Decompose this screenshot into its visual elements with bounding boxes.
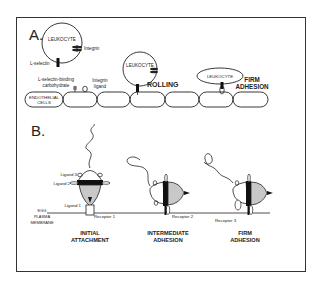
sperm-tail xyxy=(204,154,233,183)
endothelial-cell xyxy=(130,92,165,107)
l-selectin-label: L-selectin xyxy=(30,61,50,66)
receptor-2-label: Receptor 2 xyxy=(172,214,194,219)
leukocyte-1 xyxy=(42,23,82,63)
sperm-intermediate-adhesion xyxy=(127,157,190,215)
ligand-3-icon xyxy=(98,173,103,177)
l-selectin-bond-icon xyxy=(136,84,139,95)
receptor-2-icon xyxy=(166,206,170,215)
sperm-equatorial-band xyxy=(246,181,251,206)
receptor-2-stalk xyxy=(248,206,250,215)
carbohydrate-icon xyxy=(73,86,77,92)
receptor-3-icon xyxy=(235,200,241,210)
stage-2-label-2: ADHESION xyxy=(153,237,183,243)
endothelial-label-2: CELLS xyxy=(37,100,51,105)
receptor-1-label: Receptor 1 xyxy=(94,214,116,219)
ligand-2-label: Ligand 2 xyxy=(54,181,71,186)
sperm-acrosome xyxy=(251,182,267,205)
sperm-initial-attachment xyxy=(70,124,110,215)
sperm-equatorial-band xyxy=(77,180,103,185)
endothelial-label-1: ENDOTHELIAL xyxy=(29,95,59,100)
stage-2-label-1: INTERMEDIATE xyxy=(147,230,189,236)
leukocyte-2-label: LEUKOCYTE xyxy=(126,63,154,68)
stage-1-label-2: ATTACHMENT xyxy=(71,237,110,243)
endothelial-cell xyxy=(97,92,130,107)
firm-adhesion-a-label-2: ADHESION xyxy=(235,83,269,90)
ligand-1-icon xyxy=(184,191,190,195)
ligand-2-icon xyxy=(70,182,78,185)
endothelial-cell xyxy=(63,92,97,107)
ligand-3-label: Ligand 3 xyxy=(61,172,78,177)
sperm-firm-adhesion xyxy=(204,154,273,215)
sperm-equatorial-band xyxy=(163,181,168,206)
leukocyte-3-label: LEUKOCYTE xyxy=(207,74,233,79)
integrin-label: Integrin xyxy=(84,46,100,51)
receptor-3-label: Receptor 3 xyxy=(215,218,237,223)
sperm-tail xyxy=(127,157,150,186)
panel-b: B. EGG PLASMA MEMBRANE Ligand 3 Ligand 2… xyxy=(30,122,273,243)
panel-a: A. LEUKOCYTE Integrin L-selectin L-selec… xyxy=(25,23,269,107)
carbohydrate-label-1: L-selectin-binding xyxy=(38,77,74,82)
egg-label-1: EGG xyxy=(38,208,47,213)
panel-a-label: A. xyxy=(29,26,43,43)
firm-adhesion-a-label-1: FIRM xyxy=(244,76,259,83)
sperm-acrosome xyxy=(168,182,184,205)
integrin-ligand-label-2: ligand xyxy=(94,84,107,89)
figure: A. LEUKOCYTE Integrin L-selectin L-selec… xyxy=(0,0,322,285)
receptor-1-icon xyxy=(86,205,94,215)
sperm-head-rear xyxy=(233,182,248,204)
ligand-2-icon xyxy=(102,182,110,185)
carbohydrate-label-2: carbohydrate xyxy=(43,83,70,88)
integrin-ligand-icon xyxy=(83,86,88,92)
receptor-2-icon xyxy=(249,206,253,215)
ligand-2-icon xyxy=(165,174,168,182)
stage-3-label-2: ADHESION xyxy=(230,237,260,243)
receptor-2-stalk xyxy=(165,206,167,215)
ligand-1-label: Ligand 1 xyxy=(65,203,82,208)
endothelial-cell xyxy=(233,92,268,107)
endothelial-cell xyxy=(165,92,199,107)
sperm-tail xyxy=(86,124,94,168)
rolling-label: ROLLING xyxy=(147,81,179,88)
endothelial-cells xyxy=(25,92,268,107)
ligand-2-icon xyxy=(248,174,251,182)
ligand-3-icon xyxy=(78,173,83,177)
sperm-head-rear xyxy=(150,182,165,204)
leukocyte-1-label: LEUKOCYTE xyxy=(48,37,76,42)
egg-label-3: MEMBRANE xyxy=(30,220,53,225)
l-selectin-icon xyxy=(57,58,60,67)
panel-b-label: B. xyxy=(31,122,45,139)
egg-label-2: PLASMA xyxy=(34,214,51,219)
stage-1-label-1: INITIAL xyxy=(80,230,100,236)
integrin-ligand-label-1: Integrin xyxy=(92,78,108,83)
stage-3-label-1: FIRM xyxy=(238,230,252,236)
endothelial-cell xyxy=(199,92,233,107)
ligand-1-icon xyxy=(267,191,273,195)
sperm-head-upper xyxy=(78,171,102,182)
